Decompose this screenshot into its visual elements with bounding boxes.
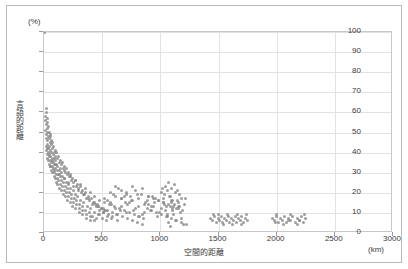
scatter-point <box>170 217 173 220</box>
scatter-point <box>121 215 124 218</box>
scatter-point <box>164 185 167 188</box>
x-tick-mark <box>334 232 335 236</box>
scatter-point <box>106 209 109 212</box>
scatter-point <box>167 181 170 184</box>
scatter-point <box>70 197 73 200</box>
scatter-point <box>70 193 73 196</box>
y-axis-title: 言語的距離 <box>14 100 23 140</box>
scatter-point <box>302 221 305 224</box>
y-tick-mark <box>39 31 43 32</box>
scatter-point <box>105 219 108 222</box>
scatter-point <box>185 223 188 226</box>
scatter-point <box>126 203 129 206</box>
y-tick-label: 60 <box>337 107 361 115</box>
scatter-point <box>131 219 134 222</box>
scatter-point <box>300 215 303 218</box>
scatter-point <box>141 213 144 216</box>
scatter-point <box>110 217 113 220</box>
scatter-point <box>282 223 285 226</box>
y-tick-label: 80 <box>337 67 361 75</box>
x-tick-label: 1500 <box>198 235 238 243</box>
x-tick-mark <box>276 232 277 236</box>
scatter-chart-figure: (%) 言語的距離 空間的距離 (km) 0102030405060708090… <box>0 0 408 269</box>
scatter-point <box>245 213 248 216</box>
scatter-point <box>89 191 92 194</box>
scatter-point <box>184 197 187 200</box>
y-tick-label: 90 <box>337 47 361 55</box>
y-tick-label: 10 <box>337 208 361 216</box>
scatter-point <box>133 213 136 216</box>
gridline-vertical <box>335 32 336 231</box>
scatter-point <box>162 197 165 200</box>
scatter-point <box>75 203 78 206</box>
y-tick-label: 50 <box>337 128 361 136</box>
x-tick-label: 3000 <box>372 235 408 243</box>
gridline-vertical <box>160 32 161 231</box>
scatter-point <box>89 207 92 210</box>
y-tick-mark <box>39 212 43 213</box>
scatter-point <box>156 215 159 218</box>
x-tick-mark <box>392 232 393 236</box>
x-tick-label: 2000 <box>256 235 296 243</box>
scatter-point <box>141 223 144 226</box>
y-tick-label: 30 <box>337 168 361 176</box>
scatter-point <box>62 181 65 184</box>
scatter-point <box>84 209 87 212</box>
y-tick-mark <box>39 152 43 153</box>
scatter-point <box>120 197 123 200</box>
scatter-point <box>69 201 72 204</box>
scatter-point <box>61 185 64 188</box>
scatter-point <box>160 213 163 216</box>
scatter-point <box>82 201 85 204</box>
scatter-point <box>222 223 225 226</box>
x-tick-mark <box>43 232 44 236</box>
scatter-point <box>178 193 181 196</box>
scatter-point <box>240 223 243 226</box>
scatter-point <box>93 219 96 222</box>
x-tick-label: 0 <box>23 235 63 243</box>
scatter-point <box>106 215 109 218</box>
y-tick-label: 100 <box>337 27 361 35</box>
x-tick-mark <box>218 232 219 236</box>
scatter-point <box>173 183 176 186</box>
scatter-point <box>89 219 92 222</box>
scatter-point <box>215 221 218 224</box>
y-tick-mark <box>39 91 43 92</box>
scatter-point <box>84 187 87 190</box>
scatter-point <box>166 189 169 192</box>
scatter-point <box>101 217 104 220</box>
scatter-point <box>136 221 139 224</box>
scatter-point <box>183 203 186 206</box>
scatter-point <box>296 223 299 226</box>
scatter-point <box>125 193 128 196</box>
scatter-point <box>137 197 140 200</box>
scatter-point <box>72 189 75 192</box>
scatter-point <box>132 209 135 212</box>
scatter-point <box>140 193 143 196</box>
scatter-point <box>167 221 170 224</box>
x-axis-unit-label: (km) <box>368 246 384 254</box>
scatter-point <box>51 159 54 162</box>
scatter-point <box>231 223 234 226</box>
scatter-point <box>93 195 96 198</box>
scatter-point <box>180 197 183 200</box>
x-tick-label: 1000 <box>139 235 179 243</box>
x-tick-label: 2500 <box>314 235 354 243</box>
scatter-point <box>211 219 214 222</box>
scatter-point <box>98 213 101 216</box>
scatter-point <box>147 195 150 198</box>
y-tick-mark <box>39 111 43 112</box>
x-tick-mark <box>101 232 102 236</box>
scatter-point <box>141 187 144 190</box>
gridline-vertical <box>219 32 220 231</box>
scatter-point <box>171 209 174 212</box>
scatter-point <box>246 219 249 222</box>
scatter-point <box>134 207 137 210</box>
scatter-point <box>81 209 84 212</box>
scatter-point <box>150 209 153 212</box>
scatter-point <box>153 201 156 204</box>
x-tick-label: 500 <box>81 235 121 243</box>
y-tick-label: 70 <box>337 87 361 95</box>
scatter-point <box>81 205 84 208</box>
scatter-point <box>131 185 134 188</box>
